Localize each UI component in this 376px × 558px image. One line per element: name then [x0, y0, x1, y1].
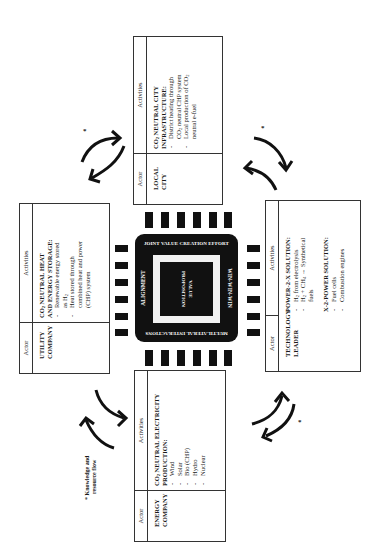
value-creation-chip: JOINT VALUE CREATION EFFORT MULTILATERAL…: [135, 234, 238, 342]
knowledge-flow-footnote: * Knowledge and resource flow: [84, 440, 98, 500]
activities-list: CO2 NEUTRAL CITY INFRASTRUCTURE: Distric…: [147, 37, 222, 154]
actor-name: UTILITY COMPANY: [33, 323, 109, 373]
chip-pin: [115, 329, 128, 336]
chip-pin: [193, 350, 201, 366]
chip-pin: [247, 245, 260, 252]
chip-pin: [224, 350, 232, 366]
activities-header: Activities: [134, 37, 146, 153]
activity-item: Heat stored throughcombined heat and pow…: [68, 208, 91, 318]
activities-list: CO2 NEUTRAL HEAT AND ENERGY STORAGE: Ren…: [33, 204, 109, 323]
actor-name: ENERGY COMPANY: [148, 491, 225, 541]
activity-title: CO2 NEUTRAL HEAT: [38, 208, 46, 318]
chip-pin: [209, 350, 217, 366]
chip-pin: [145, 212, 153, 228]
activity-item: Renewable energy storedas H2: [53, 208, 68, 318]
chip-pin: [115, 262, 128, 269]
actor-header: Actor: [135, 490, 147, 541]
actor-header: Actor: [266, 315, 278, 371]
chip-pin: [145, 350, 153, 366]
chip-pin: [115, 313, 128, 320]
actor-header: Actor: [20, 322, 32, 373]
flow-star-marker: *: [298, 418, 302, 426]
activity-item: Hydro: [191, 375, 199, 486]
activity-item: Fuel cells: [330, 205, 338, 312]
activity-item: H2 + CH4 → Syntheticalfuels: [299, 205, 314, 312]
activity-item: H2 from electrolysis: [292, 205, 300, 312]
chip-pin: [247, 279, 260, 286]
joint-value-creation-label: JOINT VALUE CREATION EFFORT: [135, 241, 238, 246]
activities-list: POWER-2-X SOLUTION: H2 from electrolysis…: [279, 201, 360, 316]
alignment-label: ALIGNMENT: [140, 270, 146, 305]
flow-arrows-bottom-right: [248, 380, 304, 448]
chip-pin: [193, 212, 201, 228]
actor-header: Actor: [134, 153, 146, 204]
actor-name: TECHNOLOGY LEADER: [279, 316, 360, 371]
chip-frame: VALUE PROPOSITION: [153, 255, 220, 323]
activities-header: Activities: [20, 204, 32, 322]
activities-list: CO2 NEUTRAL ELECTRICITY PRODUCTION: Wind…: [148, 371, 225, 491]
chip-pin: [161, 350, 169, 366]
multilateral-interactions-label: MULTILATERAL INTERACTIONS: [135, 331, 238, 336]
activity-item: District heating throughCO2 neutral CHP …: [167, 41, 182, 149]
flow-star-marker: *: [261, 124, 265, 132]
activity-item: Bio (CHP): [183, 375, 191, 486]
value-proposition-core: VALUE PROPOSITION: [160, 262, 213, 316]
chip-pin: [247, 329, 260, 336]
chip-pin: [177, 350, 185, 366]
activity-title: X-2-POWER SOLUTION:: [322, 205, 330, 312]
chip-pin: [177, 212, 185, 228]
activity-item: Solar: [176, 375, 184, 486]
box-header: Actor Activities: [134, 37, 147, 204]
chip-pin: [115, 296, 128, 303]
chip-pin: [115, 279, 128, 286]
chip-pin: [224, 212, 232, 228]
activity-title: CO2 NEUTRAL ELECTRICITY: [153, 375, 161, 486]
chip-pin: [115, 245, 128, 252]
chip-pin: [161, 212, 169, 228]
activities-header: Activities: [266, 201, 278, 315]
activity-item: Local production of CO2neutral e-fuel: [182, 41, 197, 149]
activity-item: Combustion engines: [338, 205, 346, 312]
chip-pin: [247, 313, 260, 320]
activities-header: Activities: [135, 371, 147, 490]
activity-title: CO2 NEUTRAL CITY: [152, 41, 160, 149]
activity-item: Nuclear: [199, 375, 207, 486]
chip-pin: [247, 262, 260, 269]
value-proposition-label: VALUE PROPOSITION: [180, 271, 193, 307]
activity-item: Wind: [168, 375, 176, 486]
win-win-win-label: WIN-WIN-WIN: [227, 268, 233, 308]
flow-star-marker: *: [83, 127, 87, 135]
activity-title: POWER-2-X SOLUTION:: [284, 205, 292, 312]
chip-pin: [247, 296, 260, 303]
chip-pin: [209, 212, 217, 228]
flow-arrows-top-right: [240, 128, 296, 196]
actor-name: LOCAL CITY: [147, 154, 222, 204]
